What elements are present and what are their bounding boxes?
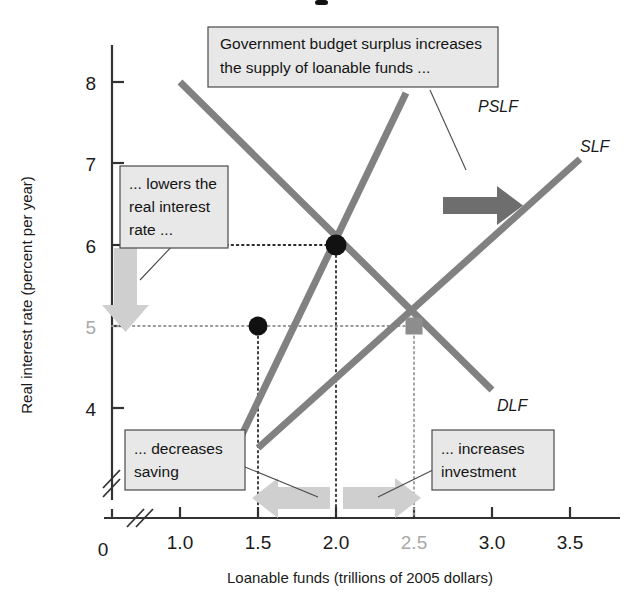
callout-lower-rate-line2: real interest [129,198,211,215]
y-axis-title: Real interest rate (percent per year) [18,176,35,414]
rate-fall-arrow [102,248,149,332]
y-tick-label-7: 7 [85,154,96,175]
callout-increases-investment-line2: investment [441,463,517,480]
x-tick-label-1-5: 1.5 [245,532,271,553]
x-tick-label-3-0: 3.0 [479,532,505,553]
x-tick-label-2-5: 2.5 [401,532,427,553]
x-tick-label-2-0: 2.0 [323,532,349,553]
curve-label-pslf: PSLF [478,98,519,115]
y-tick-label-8: 8 [85,73,96,94]
marker-new-equilibrium [406,318,423,335]
y-tick-label-4: 4 [85,399,96,420]
callout-surplus-line2: the supply of loanable funds ... [220,59,430,76]
origin-label: 0 [98,539,109,560]
callout-lower-rate: ... lowers the real interest rate ... [120,166,228,248]
marker-saving-point [249,317,268,336]
x-tick-label-1-0: 1.0 [167,532,193,553]
saving-change-arrow [252,478,330,518]
x-tick-label-3-5: 3.5 [557,532,583,553]
y-tick-label-6: 6 [85,236,96,257]
callout-lower-rate-line1: ... lowers the [129,175,217,192]
callout-increases-investment: ... increases investment [432,430,554,490]
marker-original-equilibrium [326,235,347,256]
callout-decreases-saving-line1: ... decreases [134,440,223,457]
leader-surplus [430,90,466,170]
curve-label-dlf: DLF [497,397,528,414]
callout-surplus: Government budget surplus increases the … [208,27,498,87]
x-axis-title: Loanable funds (trillions of 2005 dollar… [227,569,493,586]
callout-surplus-line1: Government budget surplus increases [220,35,482,52]
callout-decreases-saving-line2: saving [134,463,179,480]
y-tick-label-5: 5 [85,317,96,338]
callout-decreases-saving: ... decreases saving [125,430,245,490]
chart-canvas: 8 7 6 5 4 0 1.0 1.5 2.0 2.5 3.0 3.5 Real… [0,0,639,592]
loanable-funds-diagram: 8 7 6 5 4 0 1.0 1.5 2.0 2.5 3.0 3.5 Real… [0,0,639,592]
curve-label-slf: SLF [580,138,611,155]
callout-increases-investment-line1: ... increases [441,440,525,457]
callout-lower-rate-line3: rate ... [129,221,173,238]
investment-change-arrow [343,478,421,518]
page-bleed-artifact [315,0,328,5]
